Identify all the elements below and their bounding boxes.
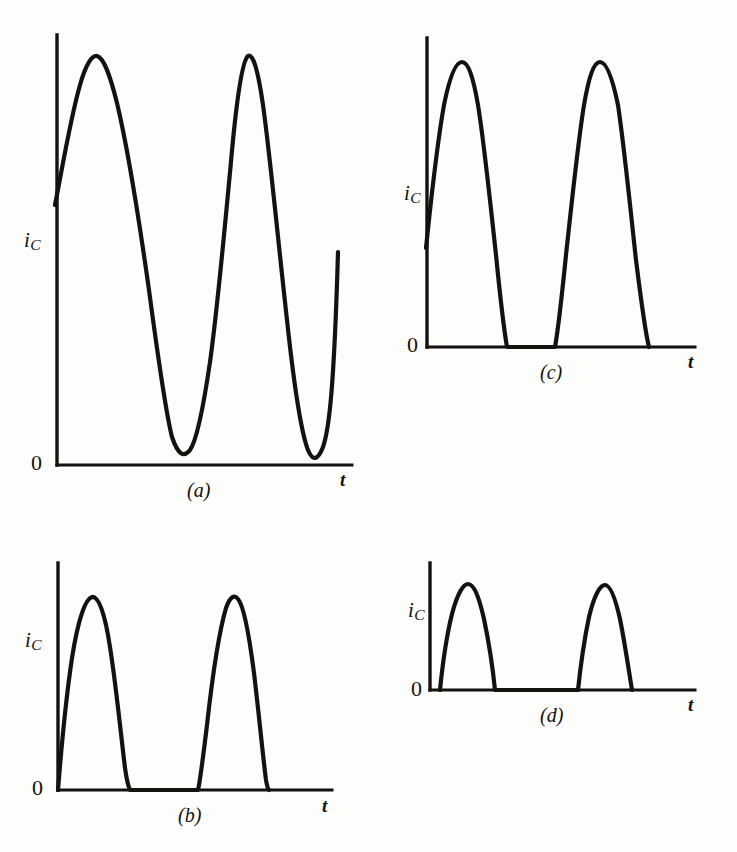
panel-c: iC 0 t (c) [400, 0, 737, 420]
origin-label-d: 0 [411, 678, 422, 700]
y-axis-label-c: iC [404, 183, 421, 206]
panel-a: iC 0 t (a) [0, 0, 380, 520]
waveform-b [58, 597, 269, 790]
y-axis-label-b: iC [25, 630, 42, 653]
x-axis-label-c: t [688, 352, 693, 371]
caption-d: (d) [540, 705, 563, 725]
panel-c-plot [400, 0, 737, 420]
caption-b: (b) [178, 805, 201, 825]
y-axis-label-d: iC [408, 600, 425, 623]
panel-b: iC 0 t (b) [0, 540, 380, 852]
waveform-a [55, 56, 338, 458]
x-axis-label-a: t [340, 470, 345, 489]
caption-a: (a) [187, 480, 210, 500]
waveform-c [426, 62, 649, 347]
origin-label-c: 0 [407, 334, 418, 356]
origin-label-a: 0 [31, 452, 42, 474]
x-axis-label-d: t [688, 695, 693, 714]
origin-label-b: 0 [32, 777, 43, 799]
panel-d: iC 0 t (d) [400, 540, 737, 790]
caption-c: (c) [540, 362, 562, 382]
waveform-d [440, 584, 632, 690]
y-axis-label-a: iC [24, 230, 41, 253]
panel-a-plot [0, 0, 380, 520]
panel-d-plot [400, 540, 737, 790]
figure-container: iC 0 t (a) iC 0 t (c) iC 0 t (b) [0, 0, 737, 852]
x-axis-label-b: t [322, 796, 327, 815]
